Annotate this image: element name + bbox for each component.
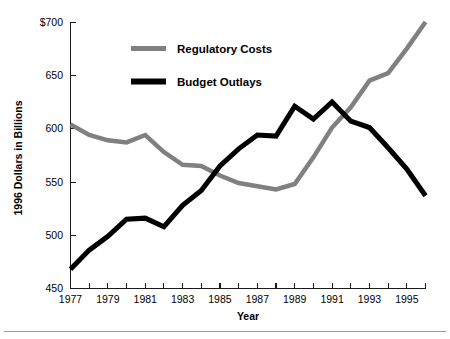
y-tick-label: 550	[45, 176, 63, 188]
x-axis-title: Year	[237, 310, 259, 322]
x-tick-marks	[71, 283, 426, 289]
x-tick-label: 1985	[208, 293, 232, 305]
x-tick-label: 1989	[283, 293, 307, 305]
y-tick-label: $700	[40, 16, 64, 28]
x-tick-label: 1993	[358, 293, 382, 305]
x-tick-label: 1977	[59, 293, 83, 305]
x-tick-label: 1995	[395, 293, 419, 305]
y-tick-labels: $700 650 600 550 500 450	[40, 16, 64, 294]
line-chart: 1996 Dollars in Billions $700 650 600 55…	[0, 0, 450, 339]
x-tick-label: 1981	[134, 293, 158, 305]
x-tick-label: 1991	[320, 293, 344, 305]
chart-legend: Regulatory Costs Budget Outlays	[131, 43, 272, 88]
x-tick-labels: 1977197919811983198519871989199119931995	[59, 293, 419, 305]
x-tick-label: 1983	[171, 293, 195, 305]
y-tick-label: 650	[45, 69, 63, 81]
y-tick-label: 500	[45, 229, 63, 241]
x-tick-label: 1979	[96, 293, 120, 305]
legend-label-budget-outlays: Budget Outlays	[177, 76, 262, 88]
y-axis-title: 1996 Dollars in Billions	[12, 100, 24, 215]
legend-label-regulatory-costs: Regulatory Costs	[177, 43, 272, 55]
chart-container: 1996 Dollars in Billions $700 650 600 55…	[0, 0, 450, 339]
x-tick-label: 1987	[246, 293, 270, 305]
y-tick-label: 600	[45, 122, 63, 134]
